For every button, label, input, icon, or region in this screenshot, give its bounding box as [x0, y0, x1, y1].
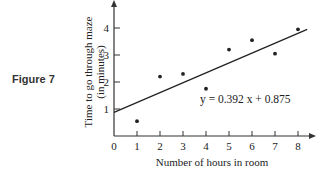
data-points	[135, 27, 300, 123]
data-point	[135, 119, 139, 123]
data-point	[181, 72, 185, 76]
y-tick-label: 4	[104, 22, 110, 34]
ticks: 0123456781234	[104, 22, 302, 152]
x-axis-arrow-icon	[309, 133, 316, 139]
x-tick-label: 3	[180, 140, 186, 152]
y-axis-label-line1: Time to go through maze	[82, 16, 94, 127]
data-point	[158, 75, 162, 79]
y-tick-label: 1	[104, 103, 110, 115]
y-tick-label: 2	[104, 76, 110, 88]
x-tick-label: 6	[249, 140, 255, 152]
data-point	[227, 48, 231, 52]
scatter-chart: Time to go through maze (in minutes) 012…	[0, 0, 320, 176]
data-point	[250, 38, 254, 42]
x-tick-label: 8	[295, 140, 301, 152]
x-tick-label: 2	[157, 140, 163, 152]
x-tick-label: 7	[272, 140, 278, 152]
data-point	[204, 87, 208, 91]
y-axis-arrow-icon	[111, 0, 117, 7]
data-point	[273, 52, 277, 56]
x-tick-label: 0	[111, 140, 117, 152]
x-tick-label: 4	[203, 140, 209, 152]
data-point	[296, 27, 300, 31]
x-tick-label: 5	[226, 140, 232, 152]
x-axis-label: Number of hours in room	[156, 156, 269, 168]
x-tick-label: 1	[134, 140, 140, 152]
y-tick-label: 3	[104, 49, 110, 61]
equation-label: y = 0.392 x + 0.875	[200, 93, 291, 106]
